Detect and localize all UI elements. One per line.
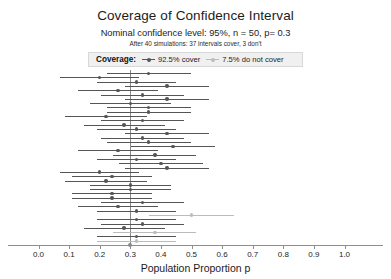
coverage-confidence-interval-figure: Coverage of Confidence Interval Nominal … — [0, 0, 391, 279]
axis-reference-marker — [128, 243, 132, 247]
legend-title: Coverage: — [96, 55, 136, 64]
axis-tick — [192, 246, 193, 249]
legend-item-cover[interactable]: 92.5% cover — [142, 55, 200, 64]
axis-tick-label: 0.8 — [278, 250, 289, 259]
axis-tick — [253, 246, 254, 249]
axis-tick-label: 0.4 — [155, 250, 166, 259]
axis-tick-label: 0.9 — [308, 250, 319, 259]
axis-tick-label: 0.2 — [94, 250, 105, 259]
axis-tick — [314, 246, 315, 249]
plot-area — [0, 70, 391, 245]
point-estimate-marker — [135, 239, 139, 243]
axis-tick-label: 0.1 — [64, 250, 75, 259]
axis-tick — [39, 246, 40, 249]
page-title: Coverage of Confidence Interval — [0, 8, 391, 23]
axis-tick — [222, 246, 223, 249]
line-with-dot-marker-icon — [206, 56, 219, 63]
confidence-interval-row — [0, 239, 391, 244]
axis-tick-label: 0.5 — [186, 250, 197, 259]
line-with-dot-marker-icon — [142, 56, 155, 63]
legend-item-label: 7.5% do not cover — [222, 55, 283, 64]
axis-tick-label: 0.7 — [247, 250, 258, 259]
legend-item-not-cover[interactable]: 7.5% do not cover — [206, 55, 283, 64]
axis-tick-label: 1.0 — [339, 250, 350, 259]
x-axis-title: Population Proportion p — [0, 262, 391, 274]
chart-annotation: After 40 simulations: 37 intervals cover… — [0, 40, 391, 47]
axis-tick-label: 0.0 — [33, 250, 44, 259]
x-axis: Population Proportion p 0.00.10.20.30.40… — [0, 245, 391, 279]
axis-tick — [100, 246, 101, 249]
chart-subtitle: Nominal confidence level: 95%, n = 50, p… — [0, 28, 391, 38]
axis-tick — [161, 246, 162, 249]
axis-tick — [283, 246, 284, 249]
axis-tick-label: 0.6 — [217, 250, 228, 259]
axis-tick — [69, 246, 70, 249]
axis-line — [8, 245, 383, 246]
axis-tick — [345, 246, 346, 249]
axis-tick-label: 0.3 — [125, 250, 136, 259]
chart-legend: Coverage: 92.5% cover 7.5% do not cover — [88, 52, 303, 67]
legend-item-label: 92.5% cover — [158, 55, 200, 64]
